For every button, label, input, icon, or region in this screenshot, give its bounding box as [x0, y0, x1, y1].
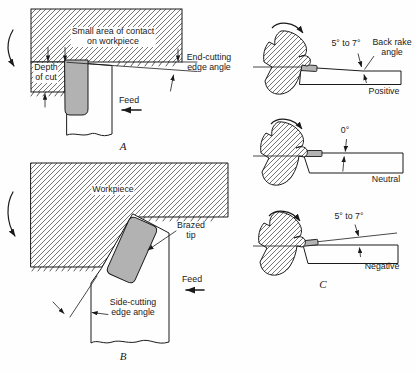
- back-rake-angle-label: Back rake angle: [372, 38, 411, 58]
- end-cutting-edge-angle-label: End-cutting edge angle: [187, 53, 232, 73]
- rotation-arrow-icon: [8, 192, 15, 236]
- brazed-tip-label: Brazed tip: [177, 221, 205, 241]
- contact-note-label: Small area of contact on workpiece: [71, 27, 156, 47]
- panel-c-positive: [253, 23, 401, 94]
- negative-name-label: Negative: [365, 262, 400, 272]
- tool-positive: [300, 64, 402, 84]
- feed-label-b: Feed: [182, 275, 202, 285]
- neutral-angle-value: 0°: [341, 126, 349, 136]
- positive-name-label: Positive: [369, 87, 400, 97]
- side-cutting-edge-angle-label: Side-cutting edge angle: [110, 298, 156, 318]
- panel-letter-b: B: [120, 350, 127, 362]
- panel-a-brazed-tip: [65, 60, 88, 115]
- panel-a-tool: [65, 60, 112, 136]
- panel-letter-a: A: [120, 140, 127, 152]
- feed-label-a: Feed: [119, 96, 139, 106]
- tool-negative: [300, 233, 398, 264]
- workpiece-label: Workpiece: [91, 185, 134, 195]
- depth-of-cut-label: Depth of cut: [33, 63, 58, 83]
- workpiece-blob: [261, 122, 308, 185]
- positive-angle-value: 5° to 7°: [331, 39, 360, 49]
- workpiece-blob: [259, 212, 306, 275]
- panel-letter-c: C: [319, 278, 326, 290]
- rotation-arrow-icon: [8, 30, 14, 66]
- tool-neutral: [302, 151, 403, 174]
- neutral-name-label: Neutral: [372, 175, 400, 185]
- figure-cutting-tool-geometry: Small area of contact on workpiece Depth…: [0, 0, 417, 373]
- negative-angle-value: 5° to 7°: [334, 212, 363, 222]
